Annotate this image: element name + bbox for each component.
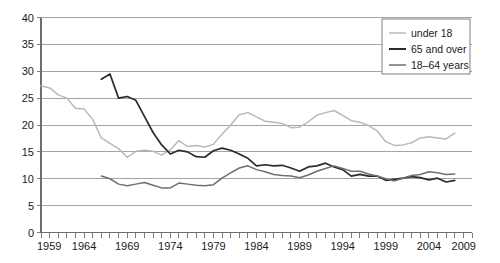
series-line-1 — [101, 74, 454, 182]
legend-label-0: under 18 — [411, 27, 453, 39]
y-axis-tick-labels: 0510152025303540 — [22, 12, 34, 239]
series-line-2 — [101, 166, 454, 188]
x-axis-tick-labels: 1959196419691974197919841989199419992004… — [37, 240, 476, 252]
y-tick-label-15: 15 — [22, 146, 34, 158]
x-tick-label-1999: 1999 — [374, 240, 398, 252]
chart-legend: under 1865 and over18–64 years — [382, 19, 470, 74]
y-tick-label-0: 0 — [28, 227, 34, 239]
y-tick-label-40: 40 — [22, 12, 34, 24]
data-series — [41, 74, 455, 188]
y-tick-label-30: 30 — [22, 65, 34, 77]
x-tick-label-1979: 1979 — [201, 240, 225, 252]
y-tick-label-35: 35 — [22, 38, 34, 50]
legend-label-1: 65 and over — [411, 43, 467, 55]
series-line-0 — [41, 86, 455, 157]
x-tick-label-2004: 2004 — [417, 240, 441, 252]
chart-canvas: 0510152025303540 19591964196919741979198… — [0, 0, 500, 263]
x-axis-tick-marks — [41, 233, 472, 238]
x-tick-label-1989: 1989 — [287, 240, 311, 252]
x-tick-label-1974: 1974 — [158, 240, 182, 252]
y-tick-label-10: 10 — [22, 173, 34, 185]
x-tick-label-1994: 1994 — [330, 240, 354, 252]
x-tick-label-1959: 1959 — [37, 240, 61, 252]
x-tick-label-1969: 1969 — [115, 240, 139, 252]
legend-label-2: 18–64 years — [411, 59, 469, 71]
y-tick-label-25: 25 — [22, 92, 34, 104]
y-tick-label-20: 20 — [22, 119, 34, 131]
poverty-rate-line-chart: 0510152025303540 19591964196919741979198… — [0, 0, 500, 263]
y-tick-label-5: 5 — [28, 200, 34, 212]
x-tick-label-1984: 1984 — [244, 240, 268, 252]
x-tick-label-1964: 1964 — [72, 240, 96, 252]
x-tick-label-2009: 2009 — [452, 240, 476, 252]
